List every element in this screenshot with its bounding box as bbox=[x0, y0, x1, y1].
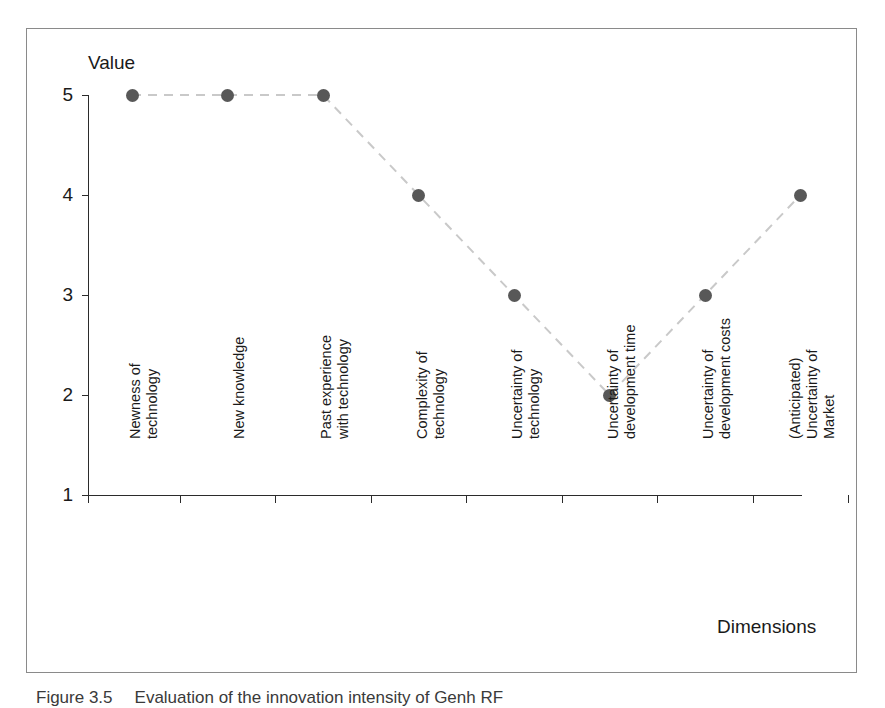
x-axis-tick bbox=[848, 495, 849, 503]
x-axis-category-label: Newness of technology bbox=[127, 363, 161, 439]
data-point bbox=[699, 289, 712, 302]
y-axis-tick-label: 5 bbox=[62, 84, 73, 106]
x-axis-tick bbox=[275, 495, 276, 503]
data-point bbox=[794, 189, 807, 202]
x-axis-tick bbox=[88, 495, 89, 503]
y-axis-tick-label: 4 bbox=[62, 184, 73, 206]
x-axis-category-label: New knowledge bbox=[231, 337, 248, 439]
x-axis-tick bbox=[180, 495, 181, 503]
x-axis-tick bbox=[371, 495, 372, 503]
x-axis-category-label: (Anticipated) Uncertainty of Market bbox=[787, 350, 838, 439]
figure-caption: Figure 3.5Evaluation of the innovation i… bbox=[36, 688, 503, 708]
y-axis-tick-label: 1 bbox=[62, 484, 73, 506]
x-axis-category-label: Uncertainty of development time bbox=[605, 325, 639, 439]
x-axis-category-label: Uncertainty of development costs bbox=[700, 318, 734, 439]
y-axis-title: Value bbox=[88, 52, 135, 74]
data-point bbox=[221, 89, 234, 102]
x-axis-category-label: Past experience with technology bbox=[318, 335, 352, 439]
data-point bbox=[412, 189, 425, 202]
data-point bbox=[508, 289, 521, 302]
x-axis-tick bbox=[753, 495, 754, 503]
figure-caption-text: Evaluation of the innovation intensity o… bbox=[135, 688, 504, 707]
data-point bbox=[126, 89, 139, 102]
figure-caption-label: Figure 3.5 bbox=[36, 688, 113, 707]
x-axis-tick bbox=[562, 495, 563, 503]
x-axis-tick bbox=[466, 495, 467, 503]
y-axis-tick-label: 3 bbox=[62, 284, 73, 306]
x-axis-category-label: Complexity of technology bbox=[414, 351, 448, 439]
x-axis-category-label: Uncertainty of technology bbox=[509, 350, 543, 439]
y-axis-tick-label: 2 bbox=[62, 384, 73, 406]
x-axis-title: Dimensions bbox=[717, 616, 816, 638]
data-point bbox=[317, 89, 330, 102]
x-axis-tick bbox=[657, 495, 658, 503]
figure-frame: Value 12345 Newness of technologyNew kno… bbox=[26, 28, 857, 673]
